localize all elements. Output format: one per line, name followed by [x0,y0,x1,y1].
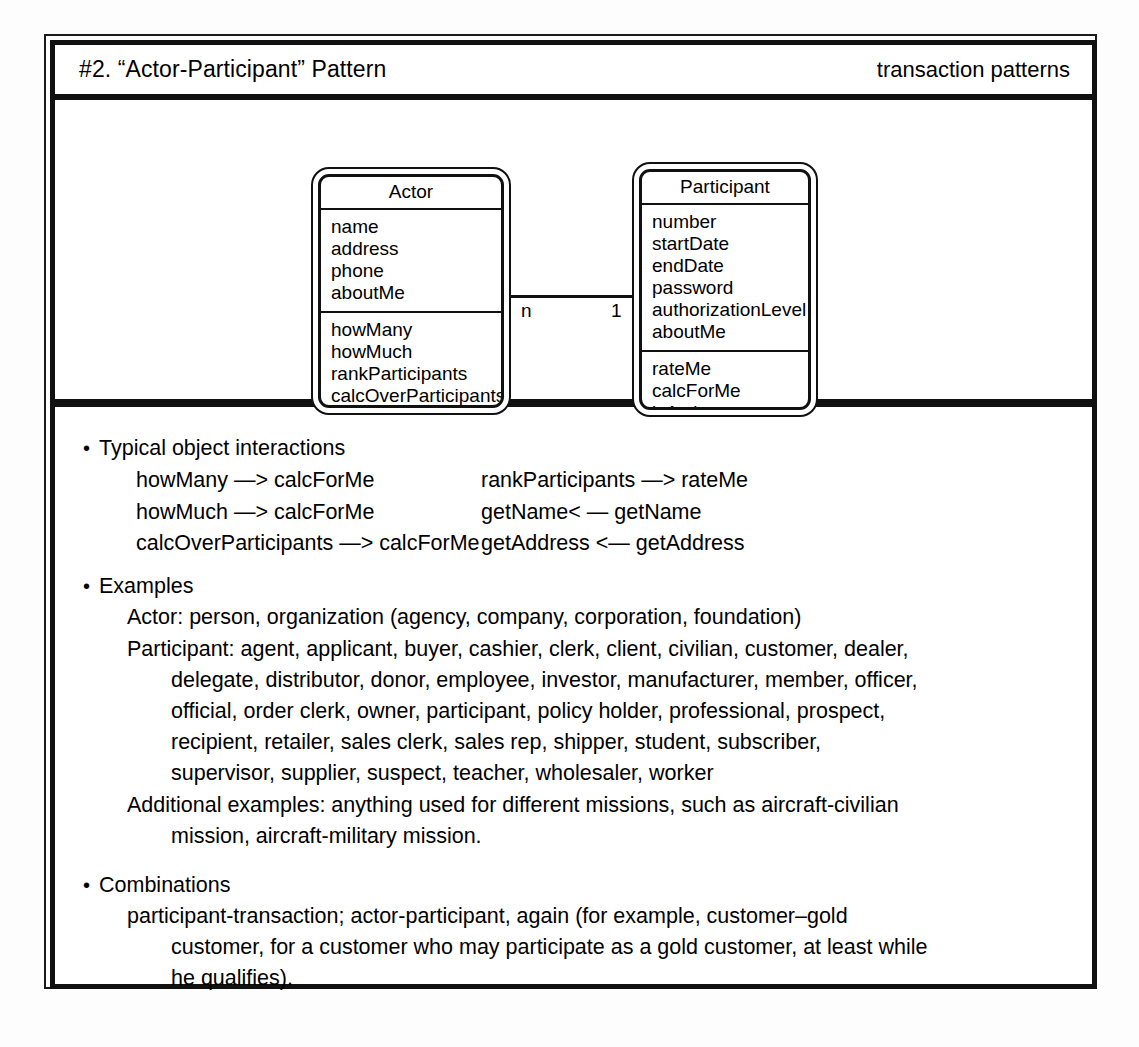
examples-participant-line: supervisor, supplier, suspect, teacher, … [171,758,1066,789]
multiplicity-source: n [521,301,532,320]
bullet-icon: • [83,438,99,458]
pattern-description-panel: • Typical object interactions howMany —>… [55,415,1092,984]
examples-body: Actor: person, organization (agency, com… [127,602,1066,851]
uml-operation: rateMe [652,358,808,380]
interaction-item: getAddress <— getAddress [481,528,748,559]
interaction-item: howMany —> calcForMe [136,465,481,496]
bullet-icon: • [83,576,99,596]
interaction-item: calcOverParticipants —> calcForMe [136,528,481,559]
section-interactions-heading: • Typical object interactions [83,433,1066,464]
bullet-icon: • [83,875,99,895]
section-heading-text: Typical object interactions [99,433,345,464]
examples-participant-line: official, order clerk, owner, participan… [171,696,1066,727]
examples-additional-line: Additional examples: anything used for d… [127,790,1066,821]
interaction-columns: howMany —> calcForMe howMuch —> calcForM… [136,465,1066,559]
uml-operation: calcForMe [652,380,808,402]
uml-attribute: endDate [652,255,808,277]
uml-operation: howMany [331,319,501,341]
uml-class-actor-inner: Actor name address phone aboutMe howMany… [318,174,504,408]
uml-attribute: phone [331,260,501,282]
uml-attribute: authorizationLevel [652,299,808,321]
examples-actor-line: Actor: person, organization (agency, com… [127,602,1066,633]
uml-class-participant: Participant number startDate endDate pas… [632,162,818,417]
uml-class-actor-attributes: name address phone aboutMe [321,210,501,313]
examples-participant-line: Participant: agent, applicant, buyer, ca… [127,634,1066,665]
uml-diagram-panel: Actor name address phone aboutMe howMany… [55,100,1092,407]
uml-attribute: name [331,216,501,238]
uml-operation: isActive [652,402,808,410]
section-interactions: • Typical object interactions howMany —>… [83,433,1066,559]
uml-attribute: startDate [652,233,808,255]
uml-class-actor-operations: howMany howMuch rankParticipants calcOve… [321,313,501,408]
uml-class-participant-name: Participant [642,172,808,205]
section-examples: • Examples Actor: person, organization (… [83,571,1066,852]
uml-class-participant-inner: Participant number startDate endDate pas… [639,169,811,410]
interaction-column-right: rankParticipants —> rateMe getName< — ge… [481,465,748,559]
uml-class-actor-name: Actor [321,177,501,210]
combinations-line: participant-transaction; actor-participa… [127,901,1066,932]
uml-attribute: password [652,277,808,299]
interaction-item: howMuch —> calcForMe [136,497,481,528]
card-titlebar: #2. “Actor-Participant” Pattern transact… [55,45,1092,100]
page-title: #2. “Actor-Participant” Pattern [79,56,386,83]
association-line [511,295,632,298]
uml-operation: calcForMe [331,407,501,408]
interaction-item: rankParticipants —> rateMe [481,465,748,496]
examples-additional-line: mission, aircraft-military mission. [171,821,1066,852]
spacer [83,858,1066,870]
examples-participant-line: recipient, retailer, sales clerk, sales … [171,727,1066,758]
section-heading-text: Combinations [99,870,230,901]
examples-participant-line: delegate, distributor, donor, employee, … [171,665,1066,696]
uml-attribute: address [331,238,501,260]
combinations-line: customer, for a customer who may partici… [171,932,1066,963]
multiplicity-target: 1 [611,301,622,320]
interaction-item: getName< — getName [481,497,748,528]
section-examples-heading: • Examples [83,571,1066,602]
combinations-body: participant-transaction; actor-participa… [127,901,1066,995]
uml-attribute: aboutMe [652,321,808,343]
uml-class-participant-operations: rateMe calcForMe isActive [642,352,808,410]
section-combinations-heading: • Combinations [83,870,1066,901]
uml-operation: calcOverParticipants [331,385,501,407]
section-combinations: • Combinations participant-transaction; … [83,870,1066,995]
pattern-card: #2. “Actor-Participant” Pattern transact… [50,40,1097,989]
uml-class-actor: Actor name address phone aboutMe howMany… [311,167,511,415]
category-label: transaction patterns [877,57,1070,83]
uml-attribute: aboutMe [331,282,501,304]
uml-attribute: number [652,211,808,233]
uml-class-participant-attributes: number startDate endDate password author… [642,205,808,352]
page-canvas: #2. “Actor-Participant” Pattern transact… [0,0,1139,1047]
interaction-column-left: howMany —> calcForMe howMuch —> calcForM… [136,465,481,559]
uml-operation: rankParticipants [331,363,501,385]
section-heading-text: Examples [99,571,193,602]
uml-operation: howMuch [331,341,501,363]
combinations-line: he qualifies). [171,963,1066,994]
